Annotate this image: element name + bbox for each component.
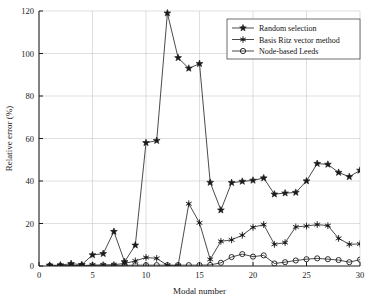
data-point xyxy=(132,242,139,249)
data-point xyxy=(273,243,275,245)
data-point xyxy=(327,225,329,227)
data-point xyxy=(260,174,267,181)
asterisk-icon xyxy=(242,39,244,41)
data-point xyxy=(228,179,235,186)
data-point xyxy=(209,258,211,260)
legend-label: Basis Ritz vector method xyxy=(259,36,340,45)
x-tick-label: 20 xyxy=(249,270,258,280)
data-point xyxy=(335,169,342,176)
data-point xyxy=(153,137,160,144)
data-point xyxy=(284,242,286,244)
data-point xyxy=(145,256,147,258)
legend-label: Node-based Leeds xyxy=(259,47,318,56)
relative-error-chart: 020406080100120051015202530Modal numberR… xyxy=(0,0,377,308)
data-point xyxy=(134,260,136,262)
y-tick-label: 0 xyxy=(30,261,34,271)
y-tick-label: 80 xyxy=(26,91,35,101)
x-tick-label: 5 xyxy=(90,270,94,280)
data-point xyxy=(346,173,353,180)
data-point xyxy=(314,160,321,167)
data-point xyxy=(100,250,107,257)
data-point xyxy=(282,190,289,197)
data-point xyxy=(263,224,265,226)
y-tick-label: 20 xyxy=(26,219,35,229)
data-point xyxy=(305,225,307,227)
y-axis-title: Relative error (%) xyxy=(4,106,14,171)
data-point xyxy=(316,224,318,226)
data-point xyxy=(188,203,190,205)
chart-canvas: 020406080100120051015202530Modal numberR… xyxy=(0,0,377,308)
y-tick-label: 40 xyxy=(26,176,35,186)
chart-legend: Random selectionBasis Ritz vector method… xyxy=(227,19,360,59)
x-tick-label: 0 xyxy=(37,270,41,280)
data-point xyxy=(231,239,233,241)
legend-label: Random selection xyxy=(259,24,317,33)
data-point xyxy=(359,243,361,245)
data-point xyxy=(338,237,340,239)
data-point xyxy=(295,226,297,228)
data-point xyxy=(110,228,117,235)
x-tick-label: 15 xyxy=(195,270,204,280)
x-axis-title: Modal number xyxy=(173,286,226,296)
data-point xyxy=(217,207,224,214)
data-point xyxy=(239,178,246,185)
data-point xyxy=(252,226,254,228)
data-point xyxy=(241,234,243,236)
data-point xyxy=(207,179,214,186)
y-tick-label: 120 xyxy=(21,6,34,16)
data-point xyxy=(156,257,158,259)
data-point xyxy=(348,243,350,245)
data-point xyxy=(220,240,222,242)
x-tick-label: 30 xyxy=(356,270,365,280)
series-line-3 xyxy=(50,254,360,266)
x-tick-label: 25 xyxy=(302,270,311,280)
data-point xyxy=(198,222,200,224)
series-line-2 xyxy=(50,204,360,266)
x-tick-label: 10 xyxy=(142,270,151,280)
y-tick-label: 100 xyxy=(21,49,34,59)
data-point xyxy=(271,191,278,198)
y-tick-label: 60 xyxy=(26,134,35,144)
